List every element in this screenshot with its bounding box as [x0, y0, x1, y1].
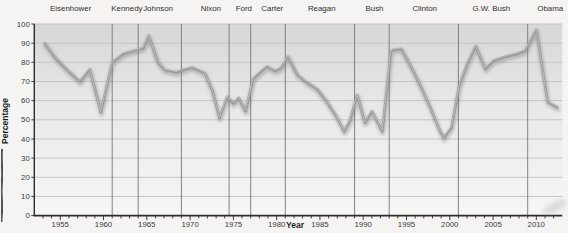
x-axis-title: Year [286, 220, 305, 230]
presidential-support-line-chart: 0102030405060708090100195519601965197019… [0, 0, 568, 233]
president-label-eisenhower: Eisenhower [50, 4, 92, 13]
x-tick-label-1995: 1995 [398, 220, 416, 229]
x-tick-label-1955: 1955 [52, 220, 70, 229]
page-edge-artifact [1, 149, 2, 222]
president-label-bush: Bush [366, 4, 384, 13]
x-tick-label-1970: 1970 [181, 220, 199, 229]
y-tick-label-30: 30 [21, 154, 30, 163]
president-label-clinton: Clinton [412, 4, 437, 13]
president-label-obama: Obama [537, 4, 563, 13]
x-tick-label-1980: 1980 [268, 220, 286, 229]
y-tick-label-50: 50 [21, 115, 30, 124]
y-tick-label-10: 10 [21, 192, 30, 201]
president-label-gwbush: G.W. Bush [472, 4, 510, 13]
x-tick-label-2000: 2000 [441, 220, 459, 229]
x-tick-label-1965: 1965 [138, 220, 156, 229]
y-tick-label-100: 100 [17, 20, 31, 29]
y-axis-title: Percentage [0, 98, 10, 144]
president-label-johnson: Johnson [143, 4, 173, 13]
x-tick-label-2010: 2010 [528, 220, 546, 229]
president-label-reagan: Reagan [308, 4, 336, 13]
y-tick-label-80: 80 [21, 58, 30, 67]
chart-layers: 0102030405060708090100195519601965197019… [1, 4, 568, 229]
x-tick-label-1985: 1985 [311, 220, 329, 229]
x-tick-label-1975: 1975 [225, 220, 243, 229]
y-tick-label-40: 40 [21, 135, 30, 144]
x-tick-label-1990: 1990 [355, 220, 373, 229]
president-labels: EisenhowerKennedyJohnsonNixonFordCarterR… [50, 4, 564, 13]
y-tick-label-20: 20 [21, 173, 30, 182]
y-tick-label-60: 60 [21, 96, 30, 105]
y-axis-ticks: 0102030405060708090100 [17, 20, 35, 221]
president-label-kennedy: Kennedy [111, 4, 142, 13]
president-label-carter: Carter [261, 4, 283, 13]
y-tick-label-90: 90 [21, 39, 30, 48]
x-tick-label-1960: 1960 [95, 220, 113, 229]
scanned-figure: 0102030405060708090100195519601965197019… [0, 0, 568, 233]
y-tick-label-70: 70 [21, 77, 30, 86]
y-tick-label-0: 0 [25, 211, 30, 220]
x-tick-label-2005: 2005 [484, 220, 502, 229]
president-label-nixon: Nixon [201, 4, 221, 13]
president-label-ford: Ford [236, 4, 252, 13]
